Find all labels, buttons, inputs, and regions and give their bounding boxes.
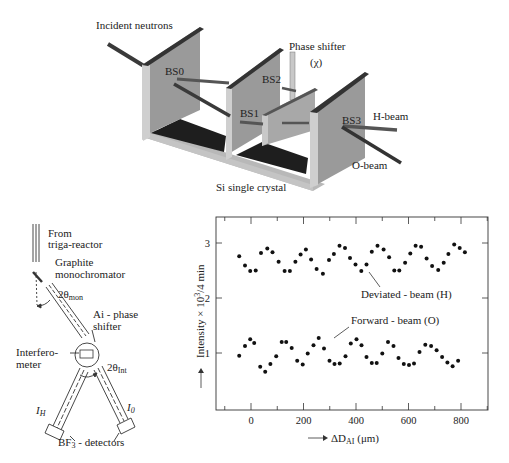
data-point xyxy=(440,355,444,359)
data-point xyxy=(271,250,275,254)
label-interferometer-2: meter xyxy=(16,358,41,370)
data-point xyxy=(312,343,316,347)
label-detectors: BF3 - detectors xyxy=(58,436,124,450)
label-phase-shifter-1: Ai - phase xyxy=(93,308,138,320)
data-point xyxy=(309,258,313,262)
data-points xyxy=(237,243,467,374)
data-point xyxy=(380,352,384,356)
data-point xyxy=(306,352,310,356)
data-point xyxy=(458,246,462,250)
data-point xyxy=(403,261,407,265)
data-point xyxy=(436,268,440,272)
data-point xyxy=(277,260,281,264)
data-point xyxy=(365,355,369,359)
data-point xyxy=(418,350,422,354)
data-point xyxy=(333,362,337,366)
svg-text:ΔDAI (μm): ΔDAI (μm) xyxy=(331,432,379,446)
data-point xyxy=(315,267,319,271)
data-point xyxy=(397,356,401,360)
data-point xyxy=(435,348,439,352)
data-point xyxy=(430,264,434,268)
data-point xyxy=(338,361,342,365)
interferometer-3d-diagram: Incident neutrons Phase shifter (χ) BS0 … xyxy=(96,19,409,193)
data-point xyxy=(243,264,247,268)
data-point xyxy=(382,248,386,252)
label-h-beam: H-beam xyxy=(373,110,409,122)
data-point xyxy=(407,363,411,367)
intensity-chart: 0200400600800123 Deviated - beam (H) For… xyxy=(193,217,488,446)
data-point xyxy=(355,337,359,341)
label-theta-mon: 2θmon xyxy=(58,288,83,302)
data-point xyxy=(265,247,269,251)
data-point xyxy=(321,272,325,276)
data-point xyxy=(446,252,450,256)
data-point xyxy=(280,340,284,344)
label-theta-int: 2θInt xyxy=(107,361,127,375)
data-point xyxy=(293,260,297,264)
label-interferometer-1: Interfero- xyxy=(16,346,58,358)
beam-bs1 xyxy=(240,122,263,124)
data-point xyxy=(348,256,352,260)
data-point xyxy=(327,258,331,262)
data-point xyxy=(343,246,347,250)
data-point xyxy=(332,252,336,256)
leader-deviated xyxy=(369,272,380,287)
data-point xyxy=(317,336,321,340)
data-point xyxy=(259,251,263,255)
data-point xyxy=(254,269,258,273)
data-point xyxy=(299,253,303,257)
data-point xyxy=(408,251,412,255)
data-point xyxy=(402,362,406,366)
data-point xyxy=(284,340,288,344)
figure: Incident neutrons Phase shifter (χ) BS0 … xyxy=(0,0,509,463)
x-tick-label: 800 xyxy=(453,415,469,426)
label-si-crystal: Si single crystal xyxy=(216,181,286,193)
data-point xyxy=(463,250,467,254)
data-point xyxy=(248,337,252,341)
phase-shifter-rod xyxy=(290,52,295,100)
interferometer-circle xyxy=(75,343,99,367)
data-point xyxy=(365,262,369,266)
data-point xyxy=(451,364,455,368)
label-o-beam: O-beam xyxy=(352,159,388,171)
x-tick-label: 200 xyxy=(296,415,312,426)
data-point xyxy=(423,343,427,347)
svg-text:Intensity × 103/4 min: Intensity × 103/4 min xyxy=(193,264,206,358)
label-bs1: BS1 xyxy=(240,107,259,119)
label-reactor: triga-reactor xyxy=(48,238,103,250)
data-point xyxy=(370,361,374,365)
x-tick-label: 400 xyxy=(348,415,364,426)
data-point xyxy=(386,340,390,344)
y-axis-label: Intensity × 103/4 min xyxy=(193,264,206,388)
data-point xyxy=(354,262,358,266)
data-point xyxy=(359,269,363,273)
leader-forward xyxy=(334,327,349,338)
data-point xyxy=(387,255,391,259)
monochromator-crystal xyxy=(33,272,42,282)
data-point xyxy=(376,244,380,248)
data-point xyxy=(290,346,294,350)
data-point xyxy=(295,359,299,363)
x-tick-label: 600 xyxy=(401,415,417,426)
label-phase-shifter: Phase shifter xyxy=(289,40,346,52)
data-point xyxy=(248,269,252,273)
label-incident-neutrons: Incident neutrons xyxy=(96,19,173,31)
data-point xyxy=(283,269,287,273)
data-point xyxy=(322,347,326,351)
data-point xyxy=(414,244,418,248)
x-tick-label: 0 xyxy=(248,415,253,426)
label-io: I0 xyxy=(126,401,135,415)
data-point xyxy=(304,248,308,252)
data-point xyxy=(328,359,332,363)
label-monochromator: monochromator xyxy=(55,268,126,280)
data-point xyxy=(288,269,292,273)
data-point xyxy=(442,261,446,265)
data-point xyxy=(456,359,460,363)
data-point xyxy=(338,244,342,248)
data-point xyxy=(445,360,449,364)
label-bs3: BS3 xyxy=(342,114,361,126)
label-chi: (χ) xyxy=(310,56,323,69)
data-point xyxy=(301,363,305,367)
data-point xyxy=(429,344,433,348)
data-point xyxy=(268,362,272,366)
